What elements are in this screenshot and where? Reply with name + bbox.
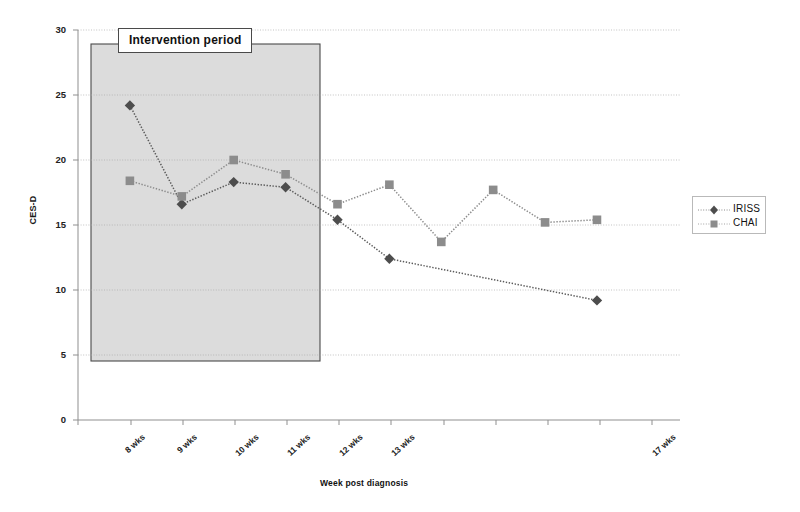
data-point-chai-1: [177, 192, 186, 201]
data-point-chai-8: [541, 218, 550, 227]
legend-item-iriss[interactable]: IRISS: [697, 201, 760, 215]
y-tick-marks: [73, 30, 78, 420]
data-point-iriss-4: [332, 215, 342, 225]
y-tick-label-5: 5: [40, 349, 66, 360]
data-point-chai-4: [333, 200, 342, 209]
y-tick-label-25: 25: [40, 89, 66, 100]
chart-legend: IRISS CHAI: [692, 196, 766, 234]
legend-item-chai[interactable]: CHAI: [697, 215, 760, 229]
data-point-chai-2: [229, 156, 238, 165]
data-point-chai-9: [593, 216, 602, 225]
data-point-iriss-9: [592, 295, 602, 305]
intervention-period-label: Intervention period: [118, 28, 252, 53]
y-tick-label-0: 0: [40, 414, 66, 425]
data-point-chai-7: [489, 186, 498, 195]
chart-plot-area: [0, 0, 800, 512]
legend-marker-diamond-icon: [697, 202, 731, 214]
data-point-chai-0: [126, 177, 135, 186]
x-tick-marks: [78, 420, 652, 425]
legend-label-chai: CHAI: [733, 217, 758, 228]
chart-container: CES-D 30 25 20 15 10 5 0 8 wks 9 wks 10 …: [0, 0, 800, 512]
legend-marker-square-icon: [697, 216, 731, 228]
intervention-period-shading: [91, 44, 320, 361]
data-point-chai-5: [385, 180, 394, 189]
data-point-chai-6: [437, 238, 446, 247]
y-axis-title: CES-D: [28, 195, 38, 224]
data-point-iriss-5: [384, 254, 394, 264]
x-axis-title: Week post diagnosis: [320, 478, 408, 488]
y-tick-label-20: 20: [40, 154, 66, 165]
y-tick-label-10: 10: [40, 284, 66, 295]
data-point-chai-3: [281, 170, 290, 179]
legend-label-iriss: IRISS: [733, 203, 760, 214]
y-tick-label-30: 30: [40, 24, 66, 35]
y-tick-label-15: 15: [40, 219, 66, 230]
